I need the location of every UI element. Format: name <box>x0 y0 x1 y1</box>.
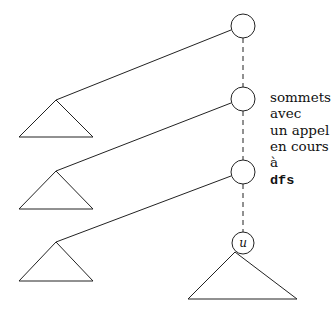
annotation-line-3: un appel <box>270 122 329 138</box>
annotation-line-5: à <box>270 154 278 170</box>
node-u-label: u <box>239 236 247 250</box>
dfs-call-stack-diagram: u sommets avec un appel en cours à dfs <box>0 0 336 317</box>
annotation-code-dfs: dfs <box>270 173 294 188</box>
annotation-line-2: avec <box>270 105 301 121</box>
edge-ancestor-1-subtree <box>56 30 231 100</box>
subtree-3-triangle <box>19 242 93 281</box>
subtree-u-triangle <box>188 252 297 299</box>
subtree-2-triangle <box>19 171 93 209</box>
annotation-line-1: sommets <box>270 89 331 105</box>
annotation-line-4: en cours <box>270 138 329 154</box>
node-ancestor-3 <box>231 160 255 184</box>
annotation: sommets avec un appel en cours à <box>270 89 331 170</box>
node-ancestor-1 <box>231 14 255 38</box>
subtree-1-triangle <box>19 100 93 137</box>
node-ancestor-2 <box>231 87 255 111</box>
